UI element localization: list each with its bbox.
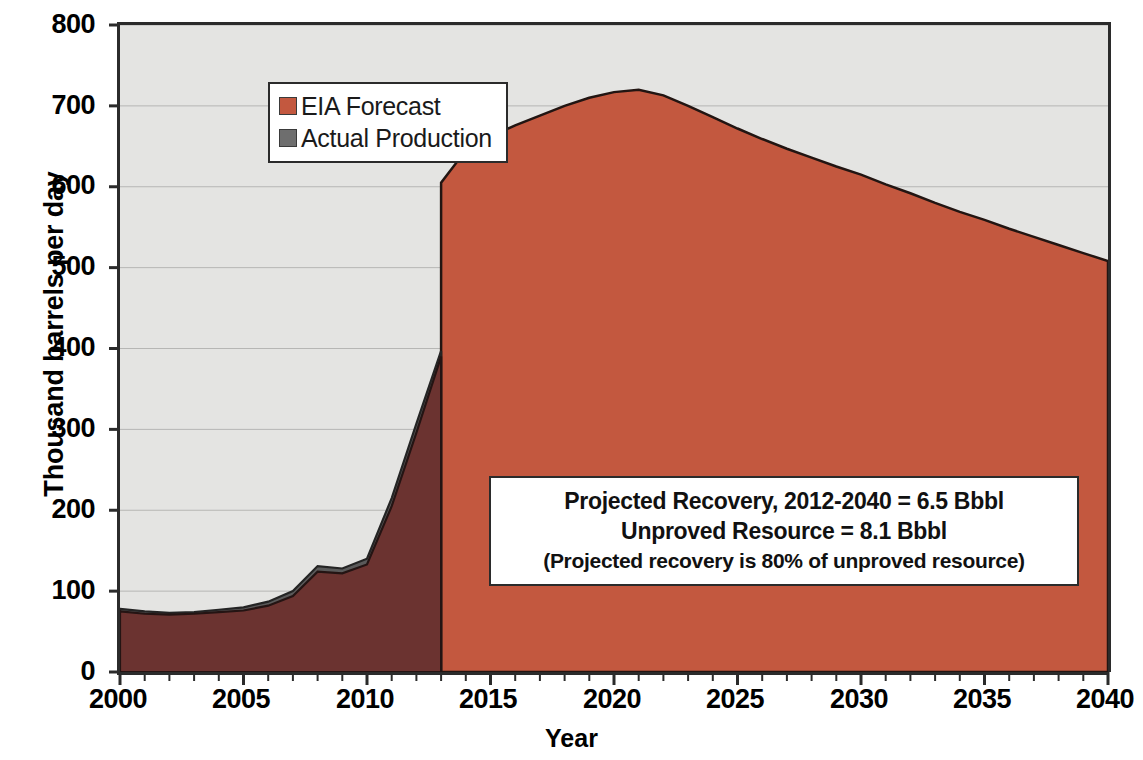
axis-ticks-svg [108,22,1120,694]
legend-label-actual-production: Actual Production [301,124,492,153]
y-axis-ticks [109,25,120,672]
y-tick-label-0: 0 [0,658,95,685]
legend-swatch-actual-production [279,129,297,147]
y-tick-label-400: 400 [0,334,95,361]
chart-legend: EIA Forecast Actual Production [268,82,508,163]
annotation-line-unproved-resource: Unproved Resource = 8.1 Bbbl [497,517,1071,547]
y-tick-label-200: 200 [0,496,95,523]
x-axis-title: Year [0,724,1143,753]
legend-swatch-eia-forecast [279,97,297,115]
annotation-line-recovery-percent: (Projected recovery is 80% of unproved r… [497,547,1071,574]
y-tick-label-300: 300 [0,415,95,442]
projection-summary-annotation: Projected Recovery, 2012-2040 = 6.5 Bbbl… [489,476,1079,586]
x-axis-ticks [120,672,1108,685]
y-tick-label-700: 700 [0,92,95,119]
legend-item-eia-forecast: EIA Forecast [279,90,492,122]
y-tick-label-600: 600 [0,172,95,199]
y-tick-label-100: 100 [0,577,95,604]
y-tick-label-800: 800 [0,11,95,38]
chart-figure: Thousand barrels per day 800 700 600 500… [0,0,1143,760]
legend-label-eia-forecast: EIA Forecast [301,92,441,121]
legend-item-actual-production: Actual Production [279,122,492,154]
y-tick-label-500: 500 [0,253,95,280]
annotation-line-projected-recovery: Projected Recovery, 2012-2040 = 6.5 Bbbl [497,487,1071,517]
